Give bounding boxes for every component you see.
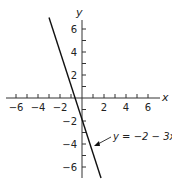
y-tick-label: −2 — [62, 116, 77, 127]
equation-label: y = −2 − 3x — [112, 131, 172, 142]
x-tick-label: −4 — [31, 102, 46, 113]
annotation-arrow — [98, 137, 111, 144]
x-axis-label: x — [161, 91, 169, 104]
y-tick-label: 2 — [71, 70, 77, 81]
y-axis-label: y — [75, 6, 83, 19]
x-tick-label: 2 — [101, 102, 107, 113]
x-tick-label: −2 — [53, 102, 68, 113]
x-tick-label: 6 — [145, 102, 151, 113]
arrowhead-icon — [94, 141, 100, 146]
y-tick-label: −6 — [62, 162, 77, 173]
line-chart: −6 −4 −2 2 4 6 6 4 2 −2 −4 −6 x y y = −2… — [0, 0, 172, 182]
x-tick-label: 4 — [123, 102, 129, 113]
y-tick-label: 4 — [71, 47, 77, 58]
y-tick-label: 6 — [71, 24, 77, 35]
y-tick-label: −4 — [62, 139, 77, 150]
x-tick-label: −6 — [9, 102, 24, 113]
